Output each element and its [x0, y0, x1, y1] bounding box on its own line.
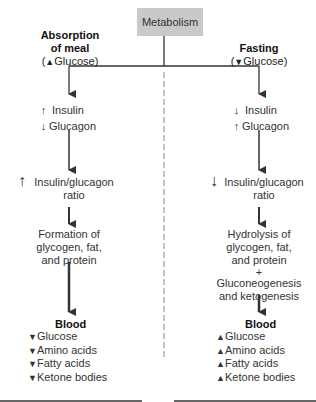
absorption-header: Absorption of meal (▲Glucose) [25, 29, 115, 69]
arrow-up-icon: ↑ [40, 104, 47, 117]
metabolism-label: Metabolism [142, 16, 198, 28]
right-ratio: Insulin/glucagon ratio [220, 176, 308, 202]
list-item: ▼Fatty acids [28, 357, 107, 371]
list-item: ▼Ketone bodies [28, 371, 107, 385]
arrow-up-icon: ▲ [45, 56, 52, 69]
arrow-down-icon: ↓ [40, 120, 47, 133]
arrow-down-icon: ↓ [210, 172, 218, 190]
arrow-up-icon: ▲ [216, 358, 223, 371]
absorption-condition: Glucose [54, 55, 94, 67]
arrow-down-icon: ▼ [28, 331, 35, 344]
right-blood-list: ▲Glucose ▲Amino acids ▲Fatty acids ▲Keto… [216, 330, 295, 384]
arrow-down-icon: ▼ [234, 56, 241, 69]
left-insulin: Insulin [52, 104, 84, 116]
list-item: ▲Glucose [216, 330, 295, 344]
arrow-up-icon: ▲ [216, 345, 223, 358]
list-item: ▲Amino acids [216, 344, 295, 358]
fasting-title: Fasting [218, 42, 300, 55]
plus-sign: + [208, 267, 310, 277]
arrow-down-icon: ↓ [233, 104, 240, 117]
left-ratio: Insulin/glucagon ratio [30, 176, 118, 202]
right-glucagon: Glucagon [242, 120, 289, 132]
left-process: Formation of glycogen, fat, and protein [25, 228, 113, 267]
list-item: ▼Amino acids [28, 344, 107, 358]
fasting-header: Fasting (▼Glucose) [218, 42, 300, 69]
left-glucagon: Glucagon [49, 120, 96, 132]
right-insulin: Insulin [245, 104, 277, 116]
arrow-down-icon: ▼ [28, 372, 35, 385]
list-item: ▼Glucose [28, 330, 107, 344]
metabolism-node: Metabolism [137, 8, 203, 36]
list-item: ▲Fatty acids [216, 357, 295, 371]
arrow-up-icon: ↑ [18, 172, 26, 190]
left-hormones: ↑ Insulin ↓Glucagon [40, 104, 96, 133]
right-hormones: ↓ Insulin ↑Glucagon [233, 104, 289, 133]
absorption-title-line1: Absorption [25, 29, 115, 42]
left-blood-list: ▼Glucose ▼Amino acids ▼Fatty acids ▼Keto… [28, 330, 107, 384]
list-item: ▲Ketone bodies [216, 371, 295, 385]
arrow-up-icon: ↑ [233, 120, 240, 133]
fasting-condition: Glucose [243, 55, 283, 67]
absorption-title-line2: of meal [25, 42, 115, 55]
arrow-down-icon: ▼ [28, 345, 35, 358]
arrow-down-icon: ▼ [28, 358, 35, 371]
right-process: Hydrolysis of glycogen, fat, and protein… [208, 228, 310, 303]
arrow-up-icon: ▲ [216, 331, 223, 344]
arrow-up-icon: ▲ [216, 372, 223, 385]
